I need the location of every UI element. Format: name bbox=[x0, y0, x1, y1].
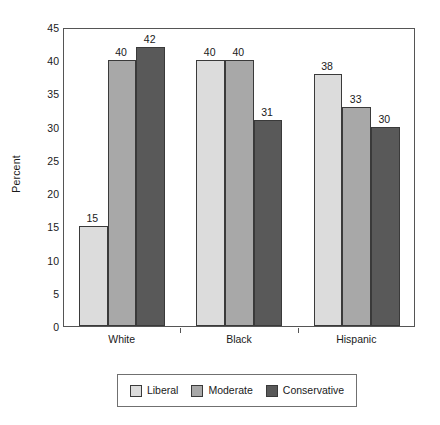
bar-chart: Percent 051015202530354045 1540424040313… bbox=[0, 0, 440, 425]
y-axis-tick-label: 20 bbox=[33, 189, 59, 199]
legend-label: Moderate bbox=[208, 385, 252, 396]
bar-value-label: 15 bbox=[78, 213, 107, 224]
legend-swatch-icon bbox=[191, 385, 203, 397]
y-axis-title: Percent bbox=[10, 139, 22, 209]
bar-value-label: 33 bbox=[341, 94, 370, 105]
y-axis-tick-label: 30 bbox=[33, 123, 59, 133]
bar-value-label: 38 bbox=[313, 61, 342, 72]
legend-item-liberal[interactable]: Liberal bbox=[130, 385, 179, 397]
bar-value-label: 40 bbox=[224, 47, 253, 58]
legend-swatch-icon bbox=[130, 385, 142, 397]
plot-area bbox=[63, 28, 415, 327]
y-axis-tick-label: 45 bbox=[33, 23, 59, 33]
y-axis-tick-label: 5 bbox=[33, 289, 59, 299]
legend-item-moderate[interactable]: Moderate bbox=[191, 385, 252, 397]
y-axis-tick-label: 35 bbox=[33, 89, 59, 99]
bar-hispanic-liberal[interactable] bbox=[314, 74, 343, 326]
bar-black-liberal[interactable] bbox=[196, 60, 225, 326]
bar-black-moderate[interactable] bbox=[225, 60, 254, 326]
bar-hispanic-moderate[interactable] bbox=[342, 107, 371, 326]
bar-value-label: 31 bbox=[253, 107, 282, 118]
y-axis-tick-label: 0 bbox=[33, 322, 59, 332]
x-axis-group-label-black: Black bbox=[180, 334, 297, 345]
y-axis-tick-label: 25 bbox=[33, 156, 59, 166]
y-axis-tick-label: 10 bbox=[33, 256, 59, 266]
x-axis-group-label-white: White bbox=[63, 334, 180, 345]
bar-white-conservative[interactable] bbox=[136, 47, 165, 326]
bar-black-conservative[interactable] bbox=[254, 120, 283, 326]
legend-swatch-icon bbox=[266, 385, 278, 397]
y-axis-tick-label: 40 bbox=[33, 56, 59, 66]
y-axis-tick-labels: 051015202530354045 bbox=[29, 0, 59, 425]
y-axis-tick-label: 15 bbox=[33, 222, 59, 232]
legend-label: Liberal bbox=[147, 385, 179, 396]
bar-value-label: 42 bbox=[135, 34, 164, 45]
bar-value-label: 30 bbox=[370, 114, 399, 125]
x-axis-tick-mark bbox=[298, 328, 299, 333]
legend-item-conservative[interactable]: Conservative bbox=[266, 385, 344, 397]
chart-legend: LiberalModerateConservative bbox=[117, 374, 357, 407]
bar-white-moderate[interactable] bbox=[108, 60, 137, 326]
bar-value-label: 40 bbox=[107, 47, 136, 58]
bar-white-liberal[interactable] bbox=[79, 226, 108, 326]
x-axis-group-label-hispanic: Hispanic bbox=[298, 334, 415, 345]
bar-value-label: 40 bbox=[195, 47, 224, 58]
bar-hispanic-conservative[interactable] bbox=[371, 127, 400, 326]
x-axis-tick-mark bbox=[180, 328, 181, 333]
legend-label: Conservative bbox=[283, 385, 344, 396]
